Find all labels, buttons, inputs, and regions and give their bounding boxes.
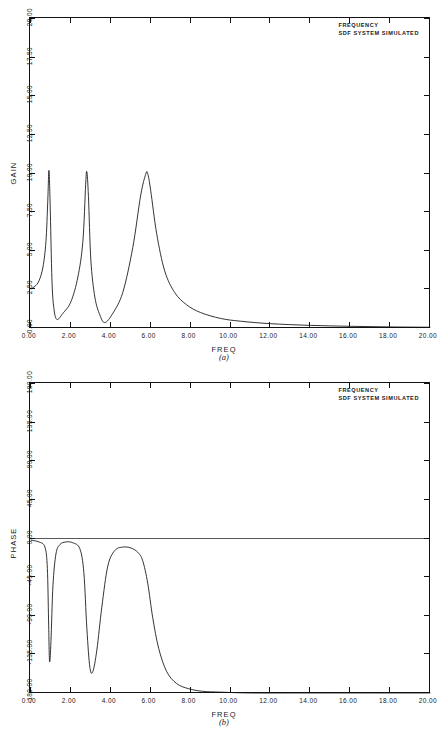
y-tick-label: 135.00 bbox=[26, 409, 33, 431]
x-tick-mark bbox=[70, 322, 71, 327]
x-tick-mark bbox=[110, 322, 111, 327]
gain-plot-frame: FREQUENCY SDF SYSTEM SIMULATED bbox=[29, 17, 430, 328]
x-tick-mark bbox=[110, 687, 111, 692]
x-tick-label: 2.00 bbox=[62, 697, 76, 704]
x-tick-mark bbox=[349, 383, 350, 388]
y-tick-mark bbox=[424, 499, 429, 500]
y-tick-label: -45.00 bbox=[26, 565, 33, 586]
subfigure-label-b: (b) bbox=[219, 717, 229, 727]
x-tick-mark bbox=[309, 322, 310, 327]
y-tick-mark bbox=[424, 692, 429, 693]
phase-curve bbox=[30, 383, 431, 694]
x-tick-mark bbox=[429, 383, 430, 388]
x-tick-mark bbox=[110, 18, 111, 23]
x-tick-label: 4.00 bbox=[102, 332, 116, 339]
x-tick-mark bbox=[309, 687, 310, 692]
data-line bbox=[31, 170, 430, 327]
y-tick-label: -180.00 bbox=[26, 679, 33, 704]
y-tick-label: 90.00 bbox=[26, 450, 33, 468]
x-tick-mark bbox=[389, 18, 390, 23]
gain-y-axis-title: GAIN bbox=[9, 162, 18, 185]
subfigure-label-a: (a) bbox=[219, 352, 229, 362]
x-tick-mark bbox=[429, 18, 430, 23]
y-tick-mark bbox=[424, 383, 429, 384]
y-tick-mark bbox=[424, 288, 429, 289]
y-tick-label: 180.00 bbox=[26, 371, 33, 393]
x-tick-label: 12.00 bbox=[259, 697, 277, 704]
y-tick-mark bbox=[424, 173, 429, 174]
y-tick-mark bbox=[424, 250, 429, 251]
x-tick-label: 8.00 bbox=[181, 697, 195, 704]
y-tick-mark bbox=[424, 653, 429, 654]
x-tick-mark bbox=[349, 322, 350, 327]
x-tick-label: 6.00 bbox=[142, 697, 156, 704]
x-tick-label: 16.00 bbox=[339, 332, 357, 339]
x-tick-label: 20.00 bbox=[419, 332, 437, 339]
x-tick-mark bbox=[230, 383, 231, 388]
x-tick-label: 12.00 bbox=[259, 332, 277, 339]
x-tick-mark bbox=[150, 322, 151, 327]
x-tick-mark bbox=[230, 687, 231, 692]
data-line bbox=[31, 540, 430, 693]
x-tick-mark bbox=[349, 687, 350, 692]
x-tick-mark bbox=[190, 687, 191, 692]
x-tick-mark bbox=[190, 322, 191, 327]
gain-panel: FREQUENCY SDF SYSTEM SIMULATED FREQ GAIN… bbox=[0, 0, 448, 365]
x-tick-label: 18.00 bbox=[379, 697, 397, 704]
phase-y-axis-title: PHASE bbox=[9, 528, 18, 559]
y-tick-label: 2.50 bbox=[26, 280, 33, 294]
x-tick-mark bbox=[269, 383, 270, 388]
y-tick-mark bbox=[424, 538, 429, 539]
y-tick-label: 5.00 bbox=[26, 242, 33, 256]
x-tick-mark bbox=[389, 687, 390, 692]
x-tick-label: 14.00 bbox=[299, 697, 317, 704]
y-tick-label: 17.50 bbox=[26, 46, 33, 64]
y-tick-mark bbox=[424, 211, 429, 212]
x-tick-mark bbox=[269, 322, 270, 327]
phase-panel: FREQUENCY SDF SYSTEM SIMULATED FREQ PHAS… bbox=[0, 365, 448, 730]
x-tick-mark bbox=[230, 322, 231, 327]
x-tick-label: 6.00 bbox=[142, 332, 156, 339]
y-tick-label: -90.00 bbox=[26, 603, 33, 624]
x-tick-mark bbox=[349, 18, 350, 23]
y-tick-mark bbox=[424, 95, 429, 96]
x-tick-mark bbox=[70, 18, 71, 23]
x-tick-label: 16.00 bbox=[339, 697, 357, 704]
x-tick-mark bbox=[70, 383, 71, 388]
x-tick-mark bbox=[70, 687, 71, 692]
y-tick-mark bbox=[424, 615, 429, 616]
x-tick-mark bbox=[150, 383, 151, 388]
y-tick-label: 15.00 bbox=[26, 85, 33, 103]
x-tick-mark bbox=[190, 383, 191, 388]
x-tick-mark bbox=[190, 18, 191, 23]
y-tick-label: 20.00 bbox=[26, 8, 33, 26]
x-tick-mark bbox=[309, 18, 310, 23]
x-tick-mark bbox=[150, 687, 151, 692]
x-tick-mark bbox=[429, 687, 430, 692]
x-tick-label: 4.00 bbox=[102, 697, 116, 704]
x-tick-mark bbox=[269, 18, 270, 23]
y-tick-label: -135.00 bbox=[26, 640, 33, 665]
x-tick-label: 14.00 bbox=[299, 332, 317, 339]
x-tick-mark bbox=[389, 322, 390, 327]
x-tick-label: 10.00 bbox=[219, 332, 237, 339]
y-tick-mark bbox=[424, 327, 429, 328]
x-tick-mark bbox=[429, 322, 430, 327]
x-tick-mark bbox=[230, 18, 231, 23]
x-tick-label: 8.00 bbox=[181, 332, 195, 339]
y-tick-mark bbox=[424, 57, 429, 58]
y-tick-mark bbox=[424, 18, 429, 19]
x-tick-label: 20.00 bbox=[419, 697, 437, 704]
y-tick-mark bbox=[424, 422, 429, 423]
y-tick-label: 45.00 bbox=[26, 489, 33, 507]
y-tick-label: 7.50 bbox=[26, 203, 33, 217]
y-tick-mark bbox=[424, 134, 429, 135]
y-tick-label: 10.00 bbox=[26, 162, 33, 180]
x-tick-mark bbox=[269, 687, 270, 692]
y-tick-label: 0.00 bbox=[26, 319, 33, 333]
x-tick-label: 18.00 bbox=[379, 332, 397, 339]
x-tick-mark bbox=[110, 383, 111, 388]
gain-curve bbox=[30, 18, 431, 329]
x-tick-mark bbox=[150, 18, 151, 23]
x-tick-label: 2.00 bbox=[62, 332, 76, 339]
